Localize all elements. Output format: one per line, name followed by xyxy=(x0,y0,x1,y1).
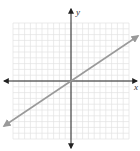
y-axis-label: y xyxy=(75,7,80,17)
x-axis-label: x xyxy=(133,82,138,92)
coordinate-plane: y x xyxy=(0,0,140,151)
